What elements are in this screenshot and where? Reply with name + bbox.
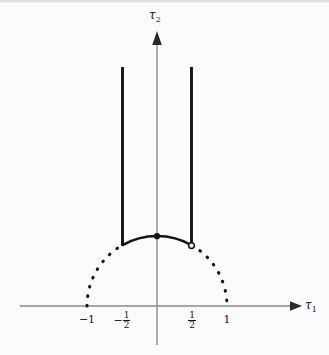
tick-minus-sign-1: − xyxy=(79,313,88,326)
tick-label-minus-one: −1 xyxy=(67,313,107,327)
x-axis-label-sub: 1 xyxy=(312,305,317,314)
y-axis-label-sub: 2 xyxy=(156,15,161,24)
tick-value-minus-one: 1 xyxy=(88,313,95,326)
point-rho-marker xyxy=(189,243,195,249)
y-axis-label-base: τ xyxy=(149,8,156,22)
x-axis-arrowhead xyxy=(290,301,302,311)
point-i-marker xyxy=(154,233,160,239)
fraction-one-half-negative: 1 2 xyxy=(123,311,131,330)
figure-container: τ1 τ2 −1 − 1 2 1 2 1 xyxy=(0,0,329,355)
tick-label-plus-one: 1 xyxy=(207,313,247,326)
fraction-denominator: 2 xyxy=(123,321,131,330)
dashed-arc-left xyxy=(87,245,122,306)
tick-label-minus-half: − 1 2 xyxy=(102,312,142,331)
tick-value-plus-one: 1 xyxy=(224,313,231,326)
y-axis-arrowhead xyxy=(152,31,162,45)
dashed-arc-right xyxy=(192,245,227,306)
fraction-denominator: 2 xyxy=(188,321,196,330)
modular-domain-plot xyxy=(0,0,329,355)
x-axis-label: τ1 xyxy=(305,298,317,314)
tick-minus-sign-2: − xyxy=(114,314,123,327)
fraction-one-half-positive: 1 2 xyxy=(188,311,196,330)
x-axis-label-base: τ xyxy=(305,298,312,312)
y-axis-label: τ2 xyxy=(149,8,161,24)
tick-label-plus-half: 1 2 xyxy=(172,312,212,331)
